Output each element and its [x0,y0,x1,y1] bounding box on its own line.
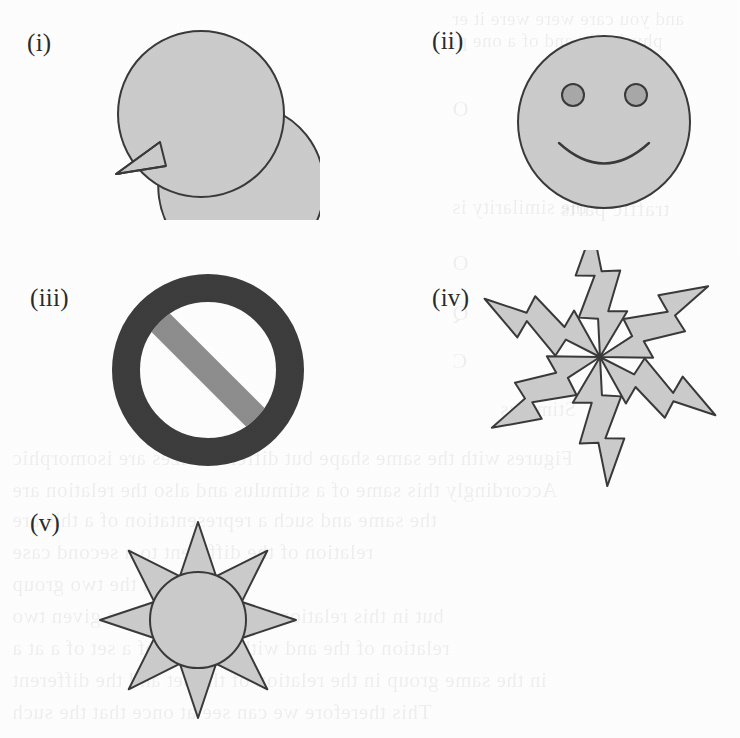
ghost-line: C [452,348,467,374]
figure-label-iv: (iv) [432,285,469,310]
smiley-eye-right [625,84,647,106]
figure-speech-bubble [100,20,320,220]
smiley-head [518,36,690,208]
sun-disc [150,572,246,668]
sun-ray [242,602,296,638]
figure-prohibition-sign [108,270,313,475]
speech-bubble-body [118,31,284,197]
figure-smiley-face [508,26,708,226]
ghost-line: O [452,250,469,276]
lightning-bolts [476,250,724,490]
figure-label-ii: (ii) [432,28,464,53]
figure-label-v: (v) [30,510,60,535]
figure-label-i: (i) [27,30,52,55]
ghost-line: O [452,96,469,122]
sun-ray [180,664,216,718]
figure-label-iii: (iii) [30,285,69,310]
sun-ray [100,602,154,638]
scanned-page: and you care were were it er physically … [0,0,740,738]
figure-lightning-burst [470,250,730,490]
figure-sun [90,512,306,728]
sun-ray [180,522,216,576]
smiley-eye-left [562,84,584,106]
